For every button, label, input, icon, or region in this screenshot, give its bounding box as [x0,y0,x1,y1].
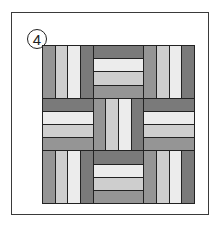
fabric-strip-dark [144,99,194,111]
fabric-strip-light [56,46,68,98]
quilt-block-4 [43,99,93,151]
fabric-strip-dark [43,99,93,111]
fabric-strip-pale [94,165,144,177]
quilt-block-6 [144,99,194,151]
quilt-block-5 [94,99,144,151]
quilt-block-7 [43,151,93,203]
fabric-strip-light [56,151,68,203]
fabric-strip-dark [132,99,144,151]
fabric-strip-med [94,99,106,151]
fabric-strip-light [43,125,93,137]
fabric-strip-dark [81,151,93,203]
fabric-strip-light [94,72,144,84]
quilt-block-1 [43,46,93,98]
quilt-block-3 [144,46,194,98]
fabric-strip-pale [119,99,131,151]
fabric-strip-light [157,46,169,98]
fabric-strip-med [94,86,144,98]
fabric-strip-med [94,191,144,203]
fabric-strip-med [43,138,93,150]
fabric-strip-pale [43,112,93,124]
fabric-strip-dark [94,46,144,58]
fabric-strip-pale [144,112,194,124]
fabric-strip-med [144,46,156,98]
fabric-strip-med [43,151,55,203]
quilt-block-2 [94,46,144,98]
fabric-strip-pale [68,151,80,203]
rail-fence-quilt-grid [42,45,195,204]
fabric-strip-dark [81,46,93,98]
fabric-strip-med [144,151,156,203]
quilt-block-8 [94,151,144,203]
fabric-strip-dark [182,46,194,98]
fabric-strip-med [144,138,194,150]
fabric-strip-light [144,125,194,137]
fabric-strip-light [94,178,144,190]
fabric-strip-light [106,99,118,151]
quilt-block-9 [144,151,194,203]
fabric-strip-dark [94,151,144,163]
fabric-strip-pale [94,59,144,71]
fabric-strip-light [157,151,169,203]
fabric-strip-pale [68,46,80,98]
fabric-strip-pale [170,151,182,203]
fabric-strip-med [43,46,55,98]
fabric-strip-dark [182,151,194,203]
fabric-strip-pale [170,46,182,98]
